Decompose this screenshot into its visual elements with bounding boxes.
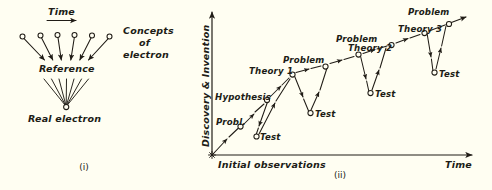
concept-node (107, 34, 112, 39)
concept-arrow (58, 38, 61, 60)
concepts-label-line1: Concepts (123, 25, 174, 36)
node-test-3 (368, 90, 373, 95)
label-problem-3: Problem (408, 7, 449, 17)
concept-node-group (20, 33, 112, 40)
trend-segment (410, 35, 420, 39)
concepts-label-line2: of (139, 37, 152, 48)
test-down-arrow (427, 33, 431, 57)
test-up-arrow (372, 70, 379, 90)
test-down-arrow (259, 102, 268, 126)
node-test-2 (308, 110, 313, 115)
concept-to-reference-arrows (24, 38, 108, 60)
concept-arrow (42, 38, 53, 60)
node-problem-3 (446, 21, 451, 26)
label-theory-1: Theory 1 (249, 66, 293, 76)
label-probl: Probl. (216, 117, 246, 127)
concept-arrow (80, 38, 91, 60)
real-electron-label: Real electron (28, 113, 101, 124)
trend-segment (344, 57, 354, 60)
reference-to-electron-rays (44, 79, 89, 105)
trend-segment (255, 104, 264, 112)
time-label: Time (48, 6, 75, 17)
test-up-tail (276, 79, 290, 101)
concept-arrow (71, 38, 75, 60)
label-hypothesis: Hypothesis (215, 92, 271, 102)
concepts-label-line3: electron (123, 49, 169, 60)
test-up-arrow (436, 48, 441, 69)
reference-label: Reference (39, 63, 95, 74)
trend-segment (214, 139, 228, 154)
node-test-1 (254, 134, 259, 139)
trend-segment (311, 66, 321, 69)
convergence-ray (52, 79, 66, 105)
test-down-arrow (295, 76, 304, 97)
convergence-ray (67, 79, 82, 105)
trend-segment (229, 129, 238, 138)
label-theory-2: Theory 2 (348, 43, 392, 53)
convergence-ray (44, 79, 65, 105)
test-down-tail (431, 59, 433, 71)
concept-arrow (24, 39, 44, 60)
y-axis-label: Discovery & Invention (200, 25, 211, 147)
figure-svg: Time Concepts of electron Reference Real… (0, 0, 492, 190)
x-axis-label: Time (445, 159, 472, 170)
label-test-4: Test (439, 69, 460, 79)
concept-node (38, 33, 43, 38)
test-down-arrow (361, 56, 367, 79)
concept-arrow (89, 39, 109, 60)
panel-i: Time Concepts of electron Reference Real… (20, 6, 174, 172)
label-test-2: Test (315, 109, 336, 119)
panel-ii-caption: (ii) (334, 170, 346, 180)
label-problem-2: Problem (336, 34, 377, 44)
trend-segment (330, 60, 342, 64)
label-theory-3: Theory 3 (398, 24, 442, 34)
test-up-arrow (311, 92, 319, 110)
concept-node (20, 34, 25, 39)
label-test-1: Test (260, 132, 281, 142)
concept-node (90, 33, 95, 38)
panel-i-caption: (i) (79, 162, 89, 172)
concept-node (55, 33, 60, 38)
figure-root: Time Concepts of electron Reference Real… (0, 0, 492, 190)
test-up-tail (442, 26, 446, 46)
panel-ii: Discovery & Invention Time Initial obser… (200, 7, 472, 180)
test-down-tail (367, 81, 369, 92)
label-test-3: Test (375, 89, 396, 99)
node-test-4 (432, 70, 437, 75)
test-up-tail (320, 68, 327, 90)
trend-segment (396, 39, 408, 44)
origin-label: Initial observations (218, 159, 326, 170)
real-electron-node (64, 104, 69, 109)
label-problem-1: Problem (283, 55, 324, 65)
concept-node (72, 33, 77, 38)
trend-segment (296, 69, 309, 73)
test-down-tail (304, 99, 309, 112)
test-node-group (254, 70, 437, 139)
